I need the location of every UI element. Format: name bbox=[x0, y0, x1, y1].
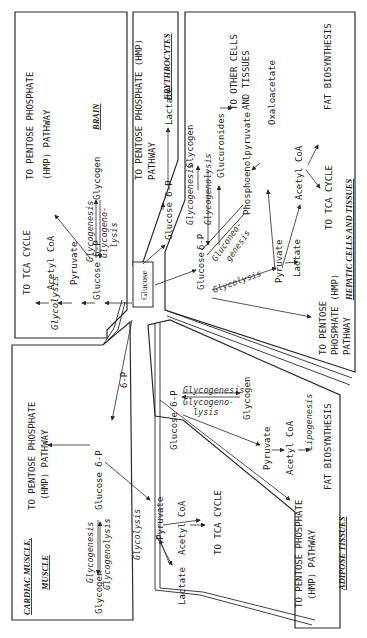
brain-section: BRAIN Glycolysis TO TCA CYCLE Acetyl CoA… bbox=[22, 72, 132, 330]
muscle-pyruvate-label: Pyruvate bbox=[155, 497, 165, 540]
hepatic-pentose-label-1: TO PENTOSE bbox=[318, 301, 328, 355]
adipose-glycogenesis-text: Glycogenesis bbox=[183, 385, 244, 395]
muscle-title-1: CARDIAC MUSCLE, bbox=[22, 538, 32, 615]
adipose-glycogenolysis-label-2: lysis bbox=[193, 407, 219, 417]
hepatic-pentose-label-3: PATHWAY bbox=[342, 316, 352, 355]
brain-glycogenolysis-label-1: Glycogeno- bbox=[99, 207, 109, 258]
hepatic-glycogenesis-label: Glycogenesis bbox=[185, 164, 195, 225]
muscle-glucose6p-short-label: 6-P bbox=[119, 371, 129, 388]
adipose-pyruvate-label: Pyruvate bbox=[262, 427, 272, 470]
hepatic-glucose-label: Glucose bbox=[196, 252, 206, 290]
muscle-pentose-label-1: TO PENTOSE PHOSPHATE bbox=[27, 402, 37, 510]
hepatic-tca-label: TO TCA CYCLE bbox=[324, 165, 334, 230]
erythrocytes-glucose6p-label: Glucose 6-P bbox=[164, 180, 174, 240]
glucose-node: Glucose bbox=[133, 262, 153, 307]
hepatic-glycogen-label: Glycogen bbox=[185, 125, 195, 168]
hepatic-glucuronides-label: Glucuronides bbox=[216, 113, 226, 178]
muscle-glycolysis-label: Glycolysis bbox=[132, 509, 142, 560]
muscle-acetylcoa-label: Acetyl CoA bbox=[177, 500, 187, 555]
erythrocytes-pentose-label-2: PATHWAY bbox=[147, 141, 157, 180]
erythrocytes-lactate-label: Lactate bbox=[164, 87, 174, 125]
hepatic-other-cells-label-2: AND TISSUES bbox=[241, 50, 251, 110]
hepatic-acetylcoa-label: Acetyl CoA bbox=[294, 145, 304, 200]
adipose-pentose-label-2: (HMP) PATHWAY bbox=[307, 529, 317, 600]
hepatic-other-cells-label-1: TO OTHER CELLS bbox=[229, 34, 239, 110]
hepatic-pyruvate-label: Pyruvate bbox=[274, 240, 284, 283]
brain-pentose-label-2: (HMP) PATHWAY bbox=[42, 109, 52, 180]
muscle-pentose-label-2: (HMP) PATHWAY bbox=[40, 429, 50, 500]
adipose-pentose-label-1: TO PENTOSE PHOSPHATE bbox=[294, 500, 304, 608]
adipose-glycogenolysis-label-1: Glycogeno- bbox=[183, 397, 234, 407]
adipose-glycogen-label: Glycogen bbox=[242, 377, 252, 420]
muscle-lactate-label: Lactate bbox=[177, 567, 187, 605]
brain-pentose-label-1: TO PENTOSE PHOSPHATE bbox=[25, 72, 35, 180]
adipose-title: ADIPOSE TISSUES bbox=[337, 516, 347, 591]
adipose-lipogenesis-label: Lipogenesis bbox=[304, 394, 314, 450]
hepatic-fat-label: FAT BIOSYNTHESIS bbox=[323, 23, 333, 110]
hepatic-title: HEPATIC CELLS AND TISSUES bbox=[344, 179, 354, 301]
brain-acetylcoa-label: Acetyl CoA bbox=[46, 235, 56, 290]
muscle-title-2: MUSCLE bbox=[40, 555, 50, 591]
brain-glycogenesis-label: Glycogenesis bbox=[85, 201, 95, 262]
adipose-section: ADIPOSE TISSUES Glucose 6-P Glycogenesis… bbox=[160, 377, 347, 608]
hepatic-lactate-label: Lactate bbox=[292, 239, 302, 277]
muscle-section: CARDIAC MUSCLE, MUSCLE Glucose 6-P 6-P T… bbox=[22, 320, 223, 615]
brain-glycogenolysis-label-2: lysis bbox=[109, 222, 119, 248]
hepatic-pep-label: Phosphoenolpyruvate bbox=[242, 112, 252, 215]
hepatic-oxaloacetate-label: Oxaloacetate bbox=[267, 60, 277, 125]
muscle-tca-label: TO TCA CYCLE bbox=[213, 490, 223, 555]
brain-tca-label: TO TCA CYCLE bbox=[22, 230, 32, 295]
brain-glycogen-label: Glycogen bbox=[92, 157, 102, 200]
brain-pyruvate-label: Pyruvate bbox=[69, 242, 79, 285]
glucose-label: Glucose bbox=[139, 271, 149, 301]
hepatic-pentose-label-2: PHOSPHATE (HMP) bbox=[330, 274, 340, 355]
muscle-glycogen-label: Glycogen bbox=[94, 571, 104, 614]
erythrocytes-pentose-label-1: TO PENTOSE PHOSPHATE (HMP) bbox=[134, 39, 144, 180]
brain-title: BRAIN bbox=[91, 103, 101, 131]
glucose-metabolism-diagram: Glucose BRAIN Glycolysis TO TCA CYCLE Ac… bbox=[0, 0, 367, 638]
adipose-fat-label: FAT BIOSYNTHESIS bbox=[323, 403, 333, 490]
adipose-acetylcoa-label: Acetyl CoA bbox=[285, 420, 295, 475]
muscle-glucose6p-label: Glucose 6-P bbox=[94, 450, 104, 510]
